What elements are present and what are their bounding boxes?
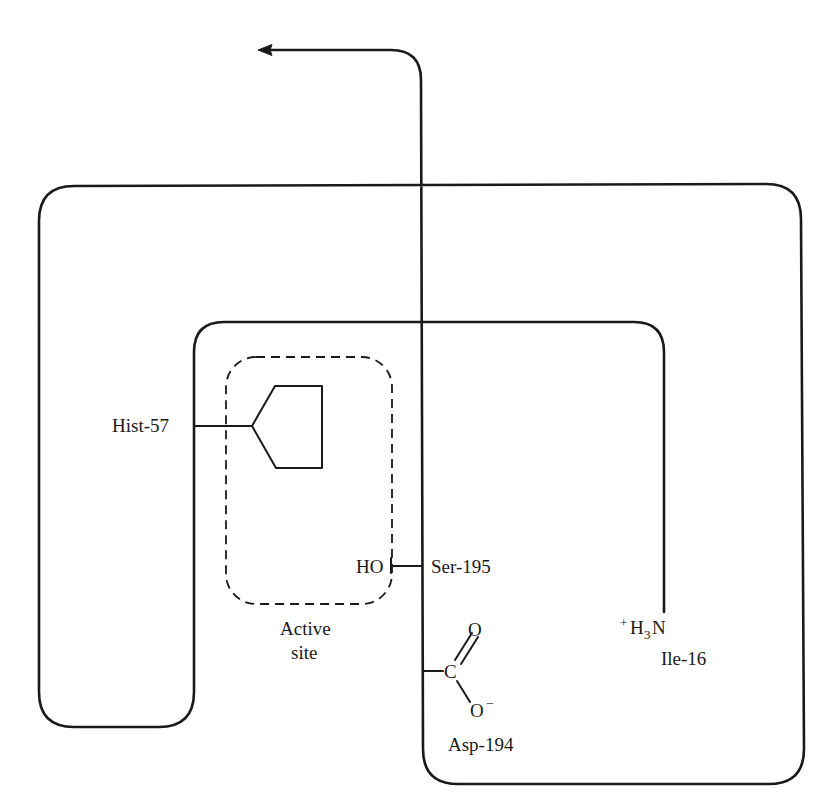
active-site-label-line1: Active [280,618,331,639]
hist57-label: Hist-57 [112,415,169,436]
asp194-label: Asp-194 [448,734,514,755]
chain-direction-arrow-icon [258,45,272,56]
carboxylate-oxygen-label: O [470,700,484,721]
amine-subscript-label: 3 [644,627,651,642]
ser195-label: Ser-195 [431,556,491,577]
carboxylate-charge-label: − [486,696,493,711]
carbonyl-oxygen-label: O [468,619,482,640]
amine-h-label: H [630,617,644,638]
active-site-label-line2: site [291,642,317,663]
amine-n-label: N [652,617,666,638]
amine-charge-label: + [620,615,627,630]
carboxylate-single-bond [457,681,470,702]
imidazole-ring-icon [252,386,322,468]
hydroxyl-label: HO [356,556,383,577]
ile16-label: Ile-16 [661,648,706,669]
carbonyl-double-bond-2 [461,637,478,664]
carbon-label: C [444,661,457,682]
chymotrypsin-fold-diagram: Hist-57 HO Ser-195 Active site C O O − A… [0,0,839,812]
